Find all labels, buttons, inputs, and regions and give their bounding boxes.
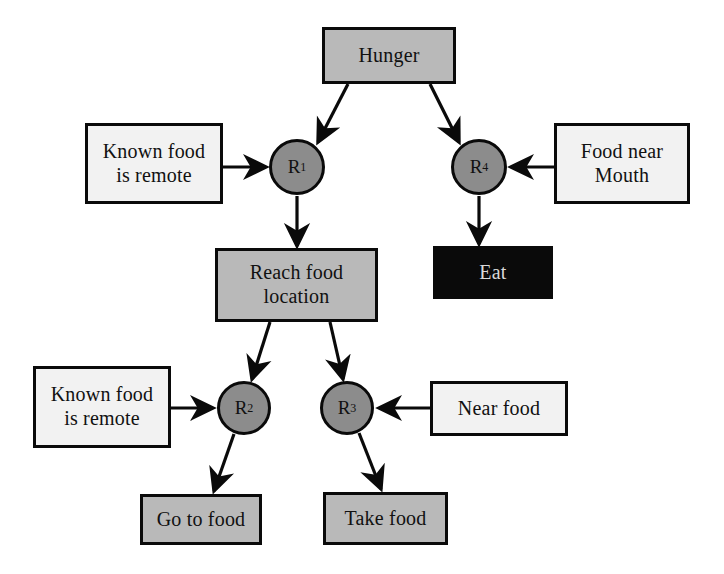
node-nearfood: Near food: [430, 381, 568, 436]
rule-node-r4-index: 4: [482, 161, 488, 173]
edge-reach-r2: [252, 322, 270, 379]
node-foodmouth-label: Food near Mouth: [581, 140, 663, 187]
rule-node-r2-index: 2: [247, 402, 253, 414]
node-known1: Known food is remote: [85, 123, 223, 204]
node-reach-label: Reach food location: [250, 261, 344, 308]
node-known1-label: Known food is remote: [103, 140, 206, 187]
rule-node-r3-index: 3: [350, 402, 356, 414]
edge-r2-gotofood: [214, 434, 234, 491]
rule-node-r1-label: R: [288, 156, 301, 178]
node-eat-label: Eat: [479, 261, 506, 285]
rule-node-r4-label: R: [470, 156, 483, 178]
node-nearfood-label: Near food: [458, 397, 540, 421]
edge-reach-r3: [330, 322, 343, 379]
rule-node-r3: R3: [320, 381, 374, 435]
node-takefood-label: Take food: [344, 507, 426, 531]
rule-node-r2: R2: [217, 381, 271, 435]
node-takefood: Take food: [323, 492, 448, 545]
edge-hunger-r4: [430, 84, 459, 142]
rule-node-r2-label: R: [235, 397, 248, 419]
node-eat: Eat: [433, 246, 553, 299]
node-foodmouth: Food near Mouth: [554, 123, 690, 204]
node-hunger-label: Hunger: [358, 44, 419, 68]
node-hunger: Hunger: [322, 27, 456, 84]
node-gotofood: Go to food: [140, 494, 262, 545]
diagram-canvas: HungerKnown food is remoteFood near Mout…: [0, 0, 724, 574]
node-known2: Known food is remote: [33, 366, 171, 448]
node-known2-label: Known food is remote: [51, 383, 154, 430]
rule-node-r3-label: R: [338, 397, 351, 419]
rule-node-r1: R1: [269, 139, 325, 195]
edge-r3-takefood: [359, 433, 381, 489]
edge-hunger-r1: [318, 84, 348, 142]
node-reach: Reach food location: [215, 248, 378, 322]
rule-node-r1-index: 1: [300, 161, 306, 173]
node-gotofood-label: Go to food: [157, 508, 246, 532]
rule-node-r4: R4: [451, 139, 507, 195]
